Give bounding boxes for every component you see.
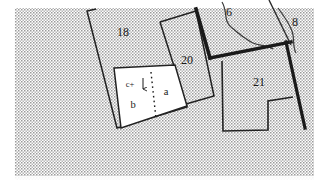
parcel-label-20: 20 [181, 53, 193, 67]
parcel-label-8: 8 [292, 15, 298, 29]
parcel-label-21: 21 [253, 75, 265, 89]
parcel-label-18: 18 [117, 25, 129, 39]
map-canvas: 18 20 6 8 21 a b c+ [0, 0, 314, 194]
parcel-label-a: a [164, 86, 169, 97]
annotation-label-c-plus: c+ [126, 79, 135, 89]
margin-fade-left [0, 0, 15, 194]
cadastral-map: 18 20 6 8 21 a b c+ [0, 0, 314, 194]
margin-fade-top [0, 0, 314, 8]
parcel-label-6: 6 [226, 5, 232, 19]
parcel-label-b: b [130, 99, 135, 110]
margin-fade-bottom [0, 176, 314, 194]
